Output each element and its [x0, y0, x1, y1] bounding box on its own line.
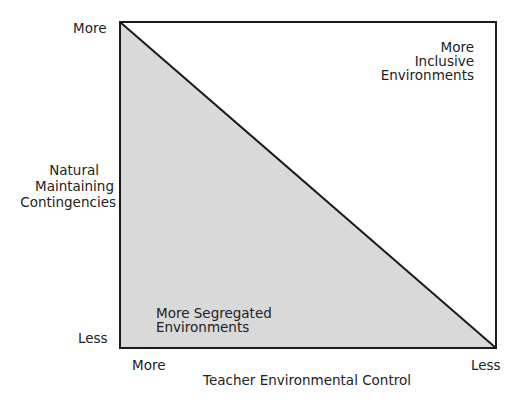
x-axis-left-label: More [132, 358, 165, 373]
y-axis-title-line: Maintaining [2, 178, 116, 194]
segregated-region-label: More Segregated Environments [156, 306, 272, 334]
segregated-label-line: More Segregated [156, 306, 272, 320]
y-axis-top-label: More [73, 21, 106, 36]
segregated-label-line: Environments [156, 320, 272, 334]
y-axis-title-line: Contingencies [2, 194, 116, 210]
y-axis-title-line: Natural [2, 162, 116, 178]
inclusive-label-line: More Inclusive [378, 40, 474, 68]
x-axis-right-label: Less [471, 358, 501, 373]
inclusive-label-line: Environments [378, 68, 474, 82]
inclusive-region-label: More Inclusive Environments [378, 40, 474, 82]
x-axis-title: Teacher Environmental Control [203, 373, 411, 388]
y-axis-title: Natural Maintaining Contingencies [2, 162, 116, 210]
y-axis-bottom-label: Less [78, 331, 108, 346]
